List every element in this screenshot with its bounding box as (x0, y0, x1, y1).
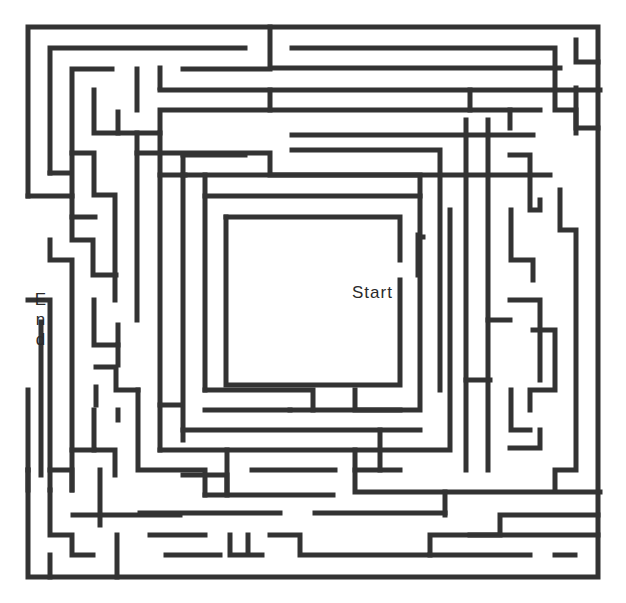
maze-wall (510, 300, 540, 380)
maze-wall (50, 490, 93, 555)
maze-wall (511, 210, 533, 280)
maze-board (0, 0, 626, 603)
end-letter-e: E (34, 290, 48, 310)
maze-wall (50, 240, 72, 490)
maze-wall (50, 470, 72, 490)
maze-wall (94, 410, 115, 475)
maze-wall (510, 430, 540, 448)
maze-wall (510, 155, 540, 210)
end-label: E n d (34, 290, 48, 350)
end-letter-n: n (34, 310, 48, 330)
maze-wall (96, 367, 138, 390)
end-letter-d: d (34, 330, 48, 350)
maze-wall (94, 90, 540, 133)
maze-wall (355, 390, 400, 410)
maze-wall (226, 217, 400, 260)
maze-wall (576, 40, 598, 62)
maze-wall (94, 300, 118, 345)
maze-wall (205, 390, 313, 410)
start-label: Start (352, 283, 393, 303)
maze-wall (72, 153, 115, 300)
maze-wall (470, 515, 598, 535)
maze-wall (555, 190, 576, 490)
maze-wall (576, 88, 598, 128)
maze-wall (270, 535, 598, 555)
maze-wall (511, 390, 530, 430)
